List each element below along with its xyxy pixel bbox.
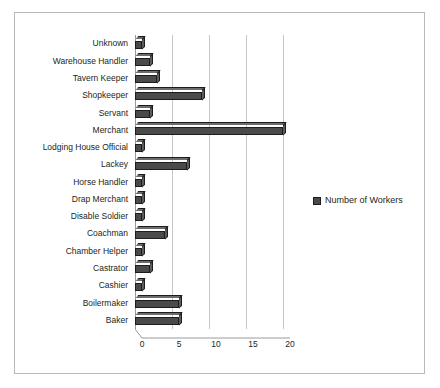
bar-wrapper: [135, 108, 150, 118]
plot-area: UnknownWarehouse HandlerTavern KeeperSho…: [135, 35, 283, 345]
category-label: Baker: [106, 316, 128, 325]
bar-wrapper: [135, 39, 142, 49]
bar-side-face: [142, 36, 145, 49]
category-label: Horse Handler: [73, 178, 128, 187]
bar-wrapper: [135, 56, 150, 66]
category-label: Servant: [99, 109, 128, 118]
bar-side-face: [142, 278, 145, 291]
bar-wrapper: [135, 298, 179, 308]
bar-side-face: [142, 244, 145, 257]
category-label: Boilermaker: [83, 299, 128, 308]
bar-side-face: [187, 157, 190, 170]
bar-wrapper: [135, 315, 179, 325]
bar-wrapper: [135, 177, 142, 187]
bar-wrapper: [135, 142, 142, 152]
bar-side-face: [179, 295, 182, 308]
bars-region: UnknownWarehouse HandlerTavern KeeperSho…: [135, 35, 283, 329]
bar-side-face: [142, 192, 145, 205]
category-label: Disable Soldier: [71, 212, 128, 221]
category-label: Warehouse Handler: [53, 57, 128, 66]
bar-top-face: [136, 226, 169, 229]
legend-swatch-icon: [313, 197, 321, 205]
bar-row: Shopkeeper: [135, 88, 283, 102]
bar[interactable]: [135, 92, 202, 100]
bar-wrapper: [135, 160, 187, 170]
bar-row: Merchant: [135, 123, 283, 137]
bar-row: Servant: [135, 106, 283, 120]
category-label: Merchant: [93, 126, 128, 135]
x-axis-tick-labels: 05101520: [135, 340, 283, 354]
category-label: Tavern Keeper: [73, 74, 128, 83]
bar[interactable]: [135, 231, 165, 239]
category-label: Castrator: [93, 264, 128, 273]
bar-row: Drap Merchant: [135, 192, 283, 206]
x-tick-label-0: 0: [140, 340, 145, 349]
bar-wrapper: [135, 73, 157, 83]
bar-wrapper: [135, 194, 142, 204]
bar-row: Tavern Keeper: [135, 71, 283, 85]
category-label: Drap Merchant: [72, 195, 128, 204]
bar[interactable]: [135, 110, 150, 118]
bar-top-face: [136, 157, 191, 160]
bar-row: Horse Handler: [135, 175, 283, 189]
category-label: Cashier: [99, 281, 128, 290]
bar[interactable]: [135, 162, 187, 170]
bar-row: Boilermaker: [135, 296, 283, 310]
bar-side-face: [202, 88, 205, 101]
bar-wrapper: [135, 281, 142, 291]
bar[interactable]: [135, 300, 179, 308]
bar-wrapper: [135, 246, 142, 256]
bar-side-face: [165, 226, 168, 239]
chart-legend: Number of Workers: [313, 196, 403, 205]
bar-wrapper: [135, 263, 150, 273]
bar-row: Lodging House Official: [135, 140, 283, 154]
bar-row: Baker: [135, 313, 283, 327]
bar-wrapper: [135, 229, 165, 239]
category-label: Shopkeeper: [82, 91, 128, 100]
gridline-20: [283, 35, 284, 329]
chart-container: UnknownWarehouse HandlerTavern KeeperSho…: [14, 12, 425, 374]
bar-row: Lackey: [135, 158, 283, 172]
bar-row: Cashier: [135, 279, 283, 293]
x-tick-label-15: 15: [248, 340, 257, 349]
bar-side-face: [179, 313, 182, 326]
bar-row: Warehouse Handler: [135, 54, 283, 68]
bar[interactable]: [135, 75, 157, 83]
bar-side-face: [150, 261, 153, 274]
bar-row: Castrator: [135, 261, 283, 275]
x-tick-label-5: 5: [177, 340, 182, 349]
bar-top-face: [136, 295, 183, 298]
bar-top-face: [136, 122, 287, 125]
bar-row: Coachman: [135, 227, 283, 241]
axis-floor-edge: [135, 329, 283, 338]
bar[interactable]: [135, 265, 150, 273]
bar-wrapper: [135, 211, 142, 221]
bar-top-face: [136, 87, 206, 90]
bar[interactable]: [135, 317, 179, 325]
bar-row: Disable Soldier: [135, 209, 283, 223]
category-label: Coachman: [87, 229, 128, 238]
bar-wrapper: [135, 90, 202, 100]
bar-side-face: [142, 140, 145, 153]
bar-side-face: [283, 123, 286, 136]
bar-row: Unknown: [135, 37, 283, 51]
category-label: Lodging House Official: [43, 143, 128, 152]
bar[interactable]: [135, 127, 283, 135]
floor-edge-svg: [135, 329, 291, 339]
bar-side-face: [142, 209, 145, 222]
bar-row: Chamber Helper: [135, 244, 283, 258]
bar-side-face: [142, 174, 145, 187]
category-label: Unknown: [93, 39, 128, 48]
category-label: Lackey: [101, 160, 128, 169]
bar[interactable]: [135, 58, 150, 66]
bar-wrapper: [135, 125, 283, 135]
x-tick-label-20: 20: [285, 340, 294, 349]
bar-top-face: [136, 312, 183, 315]
bar-side-face: [150, 105, 153, 118]
legend-label: Number of Workers: [325, 196, 403, 205]
bar-side-face: [157, 71, 160, 84]
x-tick-label-10: 10: [211, 340, 220, 349]
bar-side-face: [150, 53, 153, 66]
category-label: Chamber Helper: [66, 247, 128, 256]
